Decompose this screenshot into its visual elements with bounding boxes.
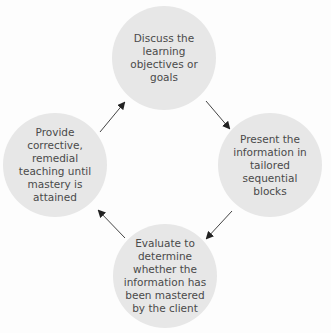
node-present-information: Present the information in tailored sequ…	[218, 113, 322, 217]
node-label: Provide corrective, remedial teaching un…	[16, 126, 94, 204]
arrow-bottom-to-left	[99, 211, 125, 238]
node-label: Present the information in tailored sequ…	[231, 133, 309, 198]
node-discuss-objectives: Discuss the learning objectives or goals	[112, 6, 216, 110]
arrow-right-to-bottom	[207, 211, 232, 238]
arrow-top-to-right	[206, 101, 229, 128]
node-label: Evaluate to determine whether the inform…	[123, 237, 207, 315]
arrow-left-to-top	[100, 103, 124, 132]
node-corrective-teaching: Provide corrective, remedial teaching un…	[3, 113, 107, 217]
cycle-diagram: Discuss the learning objectives or goals…	[0, 0, 331, 333]
node-evaluate-mastery: Evaluate to determine whether the inform…	[113, 224, 217, 328]
node-label: Discuss the learning objectives or goals	[125, 32, 203, 84]
